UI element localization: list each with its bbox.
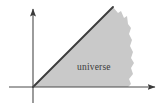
figure-canvas: universe <box>0 0 165 105</box>
universe-label: universe <box>77 62 111 72</box>
universe-wedge-figure: universe <box>0 0 165 105</box>
universe-region <box>33 7 134 87</box>
